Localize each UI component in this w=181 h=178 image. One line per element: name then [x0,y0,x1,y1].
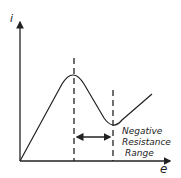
x-axis-label: e [160,162,167,176]
annotation-line-1: Negative [122,126,163,136]
annotation-line-3: Range [125,148,154,158]
annotation-line-2: Resistance [122,137,171,147]
y-axis-label: i [10,12,13,25]
diagram-canvas: i e Negative Resistance Range [0,0,181,178]
